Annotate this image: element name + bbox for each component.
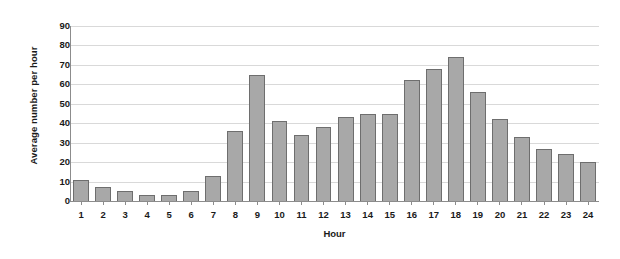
x-axis-tick-label: 13 — [335, 208, 357, 222]
x-axis-tick-marks — [70, 201, 599, 206]
x-axis-tick-label: 2 — [92, 208, 114, 222]
bar-slot — [180, 26, 202, 201]
bar-slot — [445, 26, 467, 201]
x-axis-tick-mark — [81, 201, 82, 205]
x-axis-tick-mark — [103, 201, 104, 205]
x-axis-tick-slot — [445, 201, 467, 206]
x-axis-tick-label: 11 — [290, 208, 312, 222]
bar — [205, 176, 221, 201]
bar — [183, 191, 199, 201]
x-axis-tick-mark — [301, 201, 302, 205]
x-axis-tick-slot — [268, 201, 290, 206]
bar-slot — [357, 26, 379, 201]
bar-slot — [158, 26, 180, 201]
x-axis-tick-label: 18 — [445, 208, 467, 222]
x-axis-tick-slot — [423, 201, 445, 206]
bar-slot — [224, 26, 246, 201]
x-axis-tick-mark — [279, 201, 280, 205]
x-axis-tick-label: 19 — [467, 208, 489, 222]
bar-slot — [313, 26, 335, 201]
x-axis-tick-slot — [577, 201, 599, 206]
bar — [382, 114, 398, 202]
x-axis-tick-label: 22 — [533, 208, 555, 222]
x-axis-tick-slot — [114, 201, 136, 206]
bar — [492, 119, 508, 201]
x-axis-tick-mark — [125, 201, 126, 205]
x-axis-tick-slot — [533, 201, 555, 206]
x-axis-tick-label: 9 — [246, 208, 268, 222]
y-axis-title: Average number per hour — [28, 11, 39, 201]
bar-chart: Average number per hour 0102030405060708… — [0, 0, 620, 259]
x-axis-tick-slot — [224, 201, 246, 206]
x-axis-tick-mark — [389, 201, 390, 205]
y-axis-tick-label: 10 — [44, 177, 70, 187]
x-axis-tick-label: 5 — [158, 208, 180, 222]
x-axis-tick-label: 4 — [136, 208, 158, 222]
x-axis-tick-label: 15 — [379, 208, 401, 222]
x-axis-tick-mark — [499, 201, 500, 205]
x-axis-tick-label: 8 — [224, 208, 246, 222]
x-axis-tick-mark — [433, 201, 434, 205]
bar-slot — [92, 26, 114, 201]
x-axis-tick-slot — [202, 201, 224, 206]
x-axis-tick-label: 10 — [268, 208, 290, 222]
bar-slot — [290, 26, 312, 201]
x-axis-tick-slot — [290, 201, 312, 206]
y-axis-tick-label: 40 — [44, 118, 70, 128]
bar — [294, 135, 310, 201]
bar — [249, 75, 265, 201]
x-axis-tick-label: 16 — [401, 208, 423, 222]
x-axis-tick-mark — [411, 201, 412, 205]
bar — [426, 69, 442, 201]
bar-slot — [467, 26, 489, 201]
x-axis-tick-mark — [257, 201, 258, 205]
x-axis-tick-label: 12 — [313, 208, 335, 222]
x-axis-tick-mark — [213, 201, 214, 205]
x-axis-tick-label: 14 — [357, 208, 379, 222]
x-axis-tick-slot — [467, 201, 489, 206]
x-axis-tick-mark — [191, 201, 192, 205]
x-axis-tick-mark — [323, 201, 324, 205]
x-axis-tick-slot — [180, 201, 202, 206]
y-axis-tick-label: 60 — [44, 79, 70, 89]
bar — [536, 149, 552, 202]
x-axis-tick-label: 1 — [70, 208, 92, 222]
y-axis-tick-label: 70 — [44, 60, 70, 70]
bar-series — [70, 26, 599, 201]
bar-slot — [202, 26, 224, 201]
bar — [272, 121, 288, 201]
x-axis-tick-slot — [401, 201, 423, 206]
x-axis-tick-slot — [92, 201, 114, 206]
bar — [404, 80, 420, 201]
x-axis-tick-label: 17 — [423, 208, 445, 222]
bar — [580, 162, 596, 201]
bar-slot — [423, 26, 445, 201]
bar-slot — [555, 26, 577, 201]
x-axis-tick-slot — [158, 201, 180, 206]
x-axis-tick-mark — [521, 201, 522, 205]
y-axis-tick-label: 90 — [44, 21, 70, 31]
x-axis-tick-mark — [345, 201, 346, 205]
x-axis-tick-mark — [367, 201, 368, 205]
x-axis-tick-label: 21 — [511, 208, 533, 222]
y-axis-tick-label: 0 — [44, 196, 70, 206]
x-axis-tick-label: 23 — [555, 208, 577, 222]
x-axis-tick-mark — [147, 201, 148, 205]
bar — [360, 114, 376, 202]
x-axis-tick-labels: 123456789101112131415161718192021222324 — [70, 208, 599, 222]
y-axis-tick-labels: 0102030405060708090 — [38, 0, 70, 259]
bar-slot — [335, 26, 357, 201]
x-axis-tick-mark — [566, 201, 567, 205]
bar-slot — [577, 26, 599, 201]
bar — [227, 131, 243, 201]
x-axis-tick-mark — [235, 201, 236, 205]
bar-slot — [533, 26, 555, 201]
bar — [470, 92, 486, 201]
bar — [95, 187, 111, 201]
x-axis-tick-label: 24 — [577, 208, 599, 222]
bar-slot — [268, 26, 290, 201]
x-axis-tick-label: 6 — [180, 208, 202, 222]
bar — [338, 117, 354, 201]
bar-slot — [246, 26, 268, 201]
x-axis-tick-slot — [70, 201, 92, 206]
